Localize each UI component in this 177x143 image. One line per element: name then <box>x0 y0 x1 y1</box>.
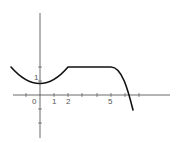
x-tick-label-0: 0 <box>32 98 36 106</box>
function-curve <box>11 67 133 110</box>
x-tick-label-5: 5 <box>108 98 112 106</box>
x-tick-label-1: 1 <box>52 98 56 106</box>
x-tick-label-2: 2 <box>66 98 70 106</box>
function-graph <box>0 0 177 143</box>
y-tick-label-1: 1 <box>34 74 38 82</box>
